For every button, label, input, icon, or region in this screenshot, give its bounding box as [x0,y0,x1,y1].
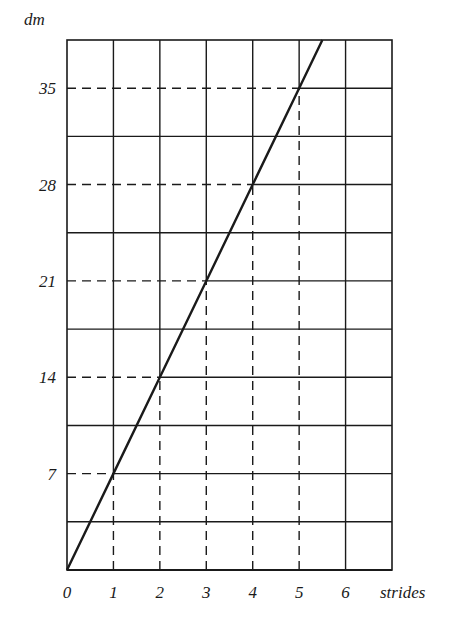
x-tick-label: 3 [201,583,211,602]
line-chart: 714212835 0123456 dm strides [0,0,465,630]
grid [67,40,392,570]
y-axis-label: dm [24,10,45,29]
x-tick-label: 2 [156,583,165,602]
data-line [67,40,322,570]
x-tick-labels: 0123456 [63,583,351,602]
x-tick-label: 4 [248,583,257,602]
x-axis-label: strides [380,583,426,602]
x-tick-label: 6 [341,583,350,602]
y-tick-label: 7 [48,465,58,484]
y-tick-label: 28 [39,176,57,195]
y-tick-label: 35 [38,79,56,98]
x-tick-label: 5 [295,583,304,602]
y-tick-label: 14 [39,368,57,387]
y-tick-label: 21 [39,272,56,291]
x-tick-label: 0 [63,583,72,602]
plot-frame [67,40,392,570]
x-tick-label: 1 [109,583,118,602]
y-tick-labels: 714212835 [38,79,58,483]
